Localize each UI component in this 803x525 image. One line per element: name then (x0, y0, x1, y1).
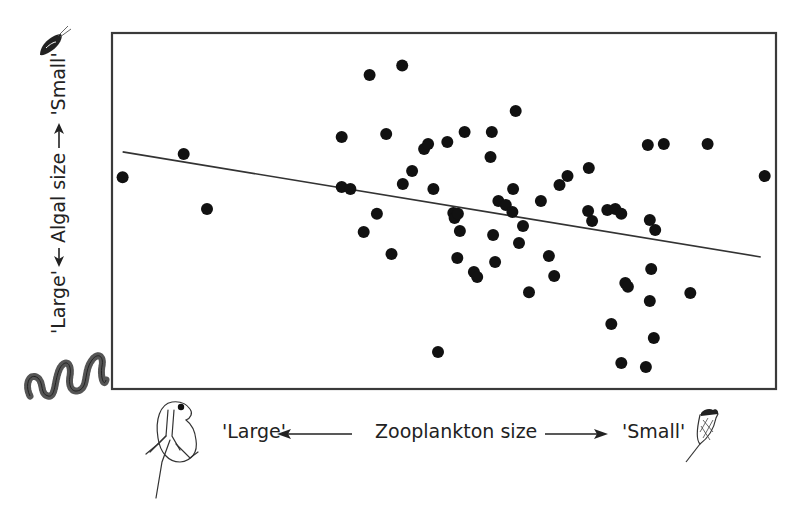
flagellate-alga-icon (40, 26, 71, 55)
data-point (615, 357, 627, 369)
data-point (517, 220, 529, 232)
data-point (644, 295, 656, 307)
data-point (441, 136, 453, 148)
data-point (380, 128, 392, 140)
daphnia-eye-icon (178, 404, 184, 410)
data-point (702, 138, 714, 150)
data-point (485, 151, 497, 163)
data-point (645, 263, 657, 275)
data-point (487, 229, 499, 241)
data-point (178, 148, 190, 160)
figure: 'Large' Zooplankton size 'Small' 'Large'… (0, 0, 803, 525)
x-axis-small-label: 'Small' (622, 420, 685, 442)
scatter-plot (0, 0, 803, 525)
data-point (344, 183, 356, 195)
y-arrow-up-icon (54, 123, 64, 148)
y-axis-small-label: 'Small' (47, 52, 69, 115)
rotifer-icon (686, 409, 718, 462)
data-point (506, 206, 518, 218)
data-point (489, 256, 501, 268)
y-axis-title: Algal size (47, 153, 69, 243)
y-axis-large-label: 'Large' (47, 270, 69, 334)
data-point (535, 195, 547, 207)
data-point (386, 248, 398, 260)
x-arrow-right-icon (545, 429, 608, 439)
data-point (117, 171, 129, 183)
data-point (432, 346, 444, 358)
data-point (759, 170, 771, 182)
data-point (397, 178, 409, 190)
data-point (562, 170, 574, 182)
data-point (658, 138, 670, 150)
data-point (371, 208, 383, 220)
data-point (406, 165, 418, 177)
x-axis-large-label: 'Large' (222, 420, 286, 442)
data-point (471, 271, 483, 283)
regression-line (123, 152, 761, 257)
data-point (486, 126, 498, 138)
data-point (513, 237, 525, 249)
x-arrow-left-icon (277, 429, 352, 439)
filamentous-alga-icon (28, 356, 106, 396)
data-point (358, 226, 370, 238)
data-point (201, 203, 213, 215)
data-point (523, 286, 535, 298)
data-point (451, 252, 463, 264)
data-point (543, 250, 555, 262)
data-point (684, 287, 696, 299)
data-point (510, 105, 522, 117)
data-point (459, 126, 471, 138)
data-point (452, 208, 464, 220)
y-arrow-down-icon (54, 248, 64, 267)
data-point (422, 138, 434, 150)
data-point (396, 59, 408, 71)
data-point (605, 318, 617, 330)
data-point (454, 225, 466, 237)
data-point (622, 281, 634, 293)
data-point (615, 208, 627, 220)
data-point (507, 183, 519, 195)
data-point (586, 215, 598, 227)
data-point (336, 131, 348, 143)
data-points (117, 59, 771, 373)
data-point (548, 270, 560, 282)
data-point (427, 183, 439, 195)
data-point (640, 361, 652, 373)
data-point (364, 69, 376, 81)
data-point (583, 162, 595, 174)
x-axis-title: Zooplankton size (375, 420, 537, 442)
data-point (554, 179, 566, 191)
data-point (648, 332, 660, 344)
daphnia-icon (146, 402, 198, 498)
data-point (649, 224, 661, 236)
data-point (642, 139, 654, 151)
